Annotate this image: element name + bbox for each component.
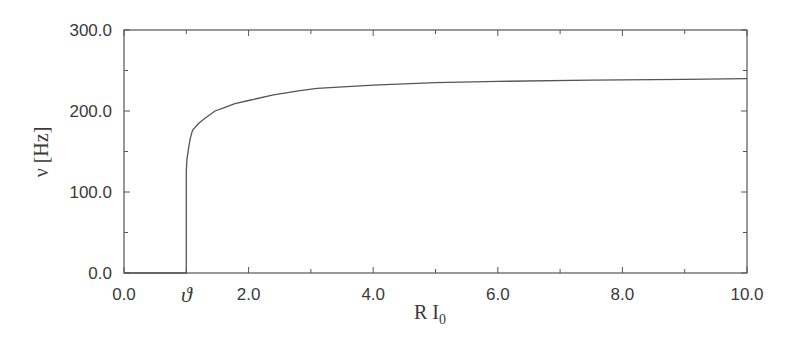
x-tick-label: 8.0 <box>611 285 635 304</box>
x-tick-label: 6.0 <box>486 285 510 304</box>
plot: 0.02.04.06.08.010.0 0.0100.0200.0300.0 ϑ… <box>0 0 794 337</box>
plot-frame <box>124 30 747 273</box>
y-tick-label: 100.0 <box>69 183 112 202</box>
y-axis-tick-labels: 0.0100.0200.0300.0 <box>69 21 112 283</box>
y-axis-ticks <box>124 30 747 273</box>
y-tick-label: 300.0 <box>69 21 112 40</box>
threshold-annotation: ϑ <box>181 282 193 307</box>
y-tick-label: 200.0 <box>69 102 112 121</box>
y-tick-label: 0.0 <box>88 264 112 283</box>
y-axis-title: ν [Hz] <box>30 127 52 178</box>
x-tick-label: 2.0 <box>237 285 261 304</box>
x-tick-label: 4.0 <box>361 285 385 304</box>
x-tick-label: 0.0 <box>112 285 136 304</box>
x-axis-ticks <box>124 30 747 273</box>
x-axis-title: R I0 <box>414 301 446 327</box>
x-tick-label: 10.0 <box>730 285 763 304</box>
data-line <box>124 79 747 273</box>
